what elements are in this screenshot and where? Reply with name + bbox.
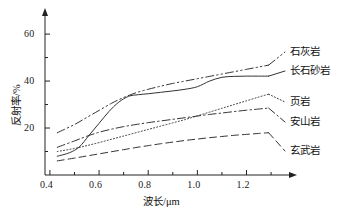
spectral-reflectance-chart: 0.40.60.81.01.2 204060 波长/μm 反射率/% 石灰岩长石… (0, 0, 340, 218)
legend-leader-2 (269, 71, 285, 76)
legend-leader-4 (269, 108, 285, 122)
legend-label-4: 安山岩 (290, 117, 320, 128)
y-tick-label-2: 40 (24, 76, 34, 86)
legend-label-1: 石灰岩 (290, 47, 320, 58)
legend-leader-3 (269, 94, 285, 102)
x-tick-label-2: 0.6 (89, 180, 102, 190)
data-series-group (57, 65, 268, 161)
series-line-4 (57, 108, 268, 147)
legend-line-samples (269, 52, 285, 151)
series-line-5 (57, 133, 268, 161)
legend-leader-1 (269, 52, 285, 65)
legend-label-2: 长石砂岩 (290, 66, 330, 77)
x-tick-label-3: 0.8 (138, 180, 151, 190)
legend-label-3: 页岩 (290, 97, 310, 108)
legend-leader-5 (269, 133, 285, 151)
x-tick-label-1: 0.4 (40, 180, 53, 190)
x-axis-title: 波长/μm (143, 197, 180, 208)
legend-label-5: 玄武岩 (290, 146, 320, 157)
x-tick-label-5: 1.2 (237, 180, 250, 190)
x-tick-label-4: 1.0 (187, 180, 200, 190)
series-line-3 (57, 94, 268, 151)
series-line-1 (57, 65, 268, 133)
y-tick-label-3: 60 (24, 29, 34, 39)
axes (42, 8, 297, 178)
y-axis-title: 反射率/% (12, 84, 23, 126)
y-tick-label-1: 20 (24, 123, 34, 133)
